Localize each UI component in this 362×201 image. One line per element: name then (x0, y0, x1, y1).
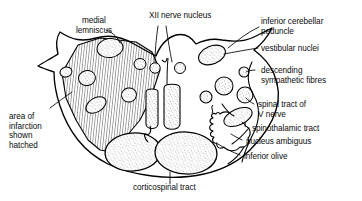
label-inferior-olive: inferior olive (244, 152, 287, 162)
xii-nucleus-left (150, 63, 160, 73)
label-corticospinal-tract: corticospinal tract (133, 183, 196, 193)
label-descending-sympathetic-fibres: descending sympathetic fibres (261, 66, 326, 85)
nucleus-oval-small-dorsal (134, 59, 146, 70)
label-spinothalamic-tract: spinothalamic tract (252, 124, 319, 134)
medial-lemniscus-right-column (164, 84, 180, 129)
vestibular-nucleus-oval (215, 77, 233, 95)
label-xii-nerve-nucleus: XII nerve nucleus (149, 11, 211, 21)
label-medial-lemniscus: medial lemniscus (76, 16, 112, 35)
xii-nucleus-right (175, 63, 186, 74)
label-nucleus-ambiguus: nucleus ambiguus (246, 137, 311, 147)
label-spinal-tract-of-v-nerve: spinal tract of V nerve (258, 100, 306, 119)
label-vestibular-nuclei: vestibular nuclei (261, 44, 319, 54)
descending-sympathetic-nucleus (239, 67, 249, 77)
brainstem-section-figure: medial lemniscus XII nerve nucleus infer… (0, 0, 362, 201)
medial-lemniscus-left-column (146, 89, 158, 129)
label-inferior-cerebellar-peduncle: inferior cerebellar peduncle (261, 17, 323, 36)
label-area-of-infarction: area of infarction shown hatched (9, 112, 42, 150)
small-nucleus-medial (200, 91, 212, 103)
